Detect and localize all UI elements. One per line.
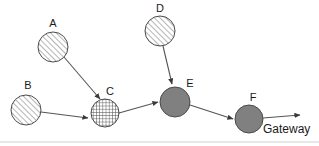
- node-group: [11, 16, 263, 133]
- network-diagram: A B C D E F Gateway: [0, 0, 319, 146]
- edge-a-to-c: [64, 57, 100, 99]
- node-b[interactable]: [11, 95, 41, 125]
- network-diagram-canvas: A B C D E F Gateway: [0, 0, 319, 146]
- edge-f-to-gateway: [263, 115, 300, 118]
- node-e[interactable]: [160, 87, 190, 117]
- edge-e-to-f: [190, 105, 233, 119]
- node-c[interactable]: [91, 99, 119, 127]
- node-label-a: A: [49, 17, 57, 29]
- node-a[interactable]: [38, 32, 68, 62]
- node-f[interactable]: [235, 105, 263, 133]
- gateway-label: Gateway: [263, 122, 310, 136]
- node-label-f: F: [250, 91, 257, 103]
- node-label-d: D: [156, 2, 164, 14]
- edge-c-to-e: [119, 102, 158, 113]
- edge-b-to-c: [41, 112, 88, 118]
- node-d[interactable]: [145, 16, 175, 46]
- node-label-b: B: [24, 79, 31, 91]
- edge-d-to-e: [163, 46, 172, 84]
- node-label-e: E: [186, 77, 193, 89]
- node-label-c: C: [106, 85, 114, 97]
